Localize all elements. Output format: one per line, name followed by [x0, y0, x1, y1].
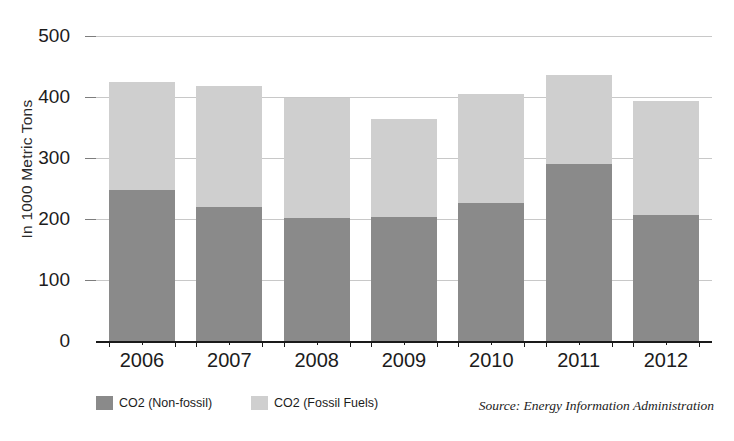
y-tick-mark-300 [85, 158, 96, 159]
x-tick-mark-center-2009 [404, 341, 405, 345]
y-tick-mark-500 [85, 36, 96, 37]
x-tick-mark [284, 341, 285, 347]
bar-column-2007[interactable] [196, 36, 262, 341]
x-tick-mark-center-2008 [317, 341, 318, 345]
bar-column-2010[interactable] [458, 36, 524, 341]
bar-column-2006[interactable] [109, 36, 175, 341]
stacked-bar-chart: In 1000 Metric Tons 0100200300400500 200… [0, 0, 734, 441]
bar-segment-non-fossil-2006[interactable] [109, 190, 175, 341]
x-axis-ticks [96, 341, 712, 349]
y-tick-mark-400 [85, 97, 96, 98]
x-axis-label-2007: 2007 [196, 349, 262, 372]
x-tick-mark [612, 341, 613, 347]
x-tick-mark [524, 341, 525, 347]
y-tick-label-100: 100 [0, 269, 70, 291]
y-tick-mark-200 [85, 219, 96, 220]
x-tick-mark [262, 341, 263, 347]
bar-segment-fossil-fuels-2006[interactable] [109, 82, 175, 190]
x-tick-mark [458, 341, 459, 347]
legend-item-fossil-fuels[interactable]: CO2 (Fossil Fuels) [251, 396, 378, 410]
bar-segment-fossil-fuels-2011[interactable] [546, 75, 612, 164]
y-tick-mark-100 [85, 280, 96, 281]
bar-column-2012[interactable] [633, 36, 699, 341]
y-tick-label-500: 500 [0, 25, 70, 47]
bar-segment-non-fossil-2012[interactable] [633, 215, 699, 341]
x-tick-mark-center-2006 [142, 341, 143, 345]
x-tick-mark [546, 341, 547, 347]
x-tick-mark [699, 341, 700, 347]
x-axis-label-2010: 2010 [458, 349, 524, 372]
source-note: Source: Energy Information Administratio… [479, 398, 714, 414]
bar-segment-non-fossil-2007[interactable] [196, 207, 262, 341]
x-tick-mark-center-2011 [579, 341, 580, 345]
bar-segment-fossil-fuels-2007[interactable] [196, 86, 262, 207]
x-tick-mark-center-2007 [229, 341, 230, 345]
x-tick-mark [175, 341, 176, 347]
x-axis-labels: 2006200720082009201020112012 [96, 349, 712, 372]
legend-swatch-non-fossil [96, 396, 113, 410]
bar-segment-non-fossil-2009[interactable] [371, 217, 437, 341]
y-tick-label-0: 0 [0, 330, 70, 352]
bar-segment-fossil-fuels-2012[interactable] [633, 101, 699, 215]
x-axis-label-2012: 2012 [633, 349, 699, 372]
bar-segment-fossil-fuels-2010[interactable] [458, 94, 524, 203]
bar-segment-fossil-fuels-2009[interactable] [371, 119, 437, 217]
bar-segment-non-fossil-2010[interactable] [458, 203, 524, 341]
bars-group [96, 36, 712, 341]
bar-column-2009[interactable] [371, 36, 437, 341]
y-tick-label-200: 200 [0, 208, 70, 230]
x-tick-mark-center-2010 [491, 341, 492, 345]
x-axis-label-2009: 2009 [371, 349, 437, 372]
legend-label-non-fossil: CO2 (Non-fossil) [119, 396, 212, 410]
bar-segment-fossil-fuels-2008[interactable] [284, 98, 350, 218]
x-tick-mark [371, 341, 372, 347]
y-tick-label-300: 300 [0, 147, 70, 169]
legend-swatch-fossil-fuels [251, 396, 268, 410]
x-axis-label-2011: 2011 [546, 349, 612, 372]
plot-area: 0100200300400500 [96, 36, 712, 341]
bar-segment-non-fossil-2008[interactable] [284, 218, 350, 341]
bar-column-2008[interactable] [284, 36, 350, 341]
legend-label-fossil-fuels: CO2 (Fossil Fuels) [274, 396, 378, 410]
x-tick-mark [633, 341, 634, 347]
bar-segment-non-fossil-2011[interactable] [546, 164, 612, 341]
x-tick-mark [109, 341, 110, 347]
x-tick-mark [196, 341, 197, 347]
legend-item-non-fossil[interactable]: CO2 (Non-fossil) [96, 396, 212, 410]
x-tick-mark [350, 341, 351, 347]
y-tick-label-400: 400 [0, 86, 70, 108]
x-axis-label-2006: 2006 [109, 349, 175, 372]
x-tick-mark-center-2012 [666, 341, 667, 345]
x-tick-mark [437, 341, 438, 347]
bar-column-2011[interactable] [546, 36, 612, 341]
x-axis-label-2008: 2008 [284, 349, 350, 372]
